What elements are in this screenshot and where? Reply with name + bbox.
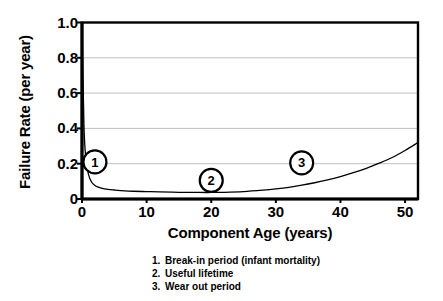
gridlines bbox=[82, 23, 418, 164]
legend-note-text: Break-in period (infant mortality) bbox=[165, 255, 320, 266]
legend-note-item: 2.Useful lifetime bbox=[152, 267, 320, 280]
legend-note-item: 1.Break-in period (infant mortality) bbox=[152, 254, 320, 267]
region-markers: 123 bbox=[83, 150, 313, 192]
legend-note-number: 3. bbox=[152, 280, 165, 293]
legend-notes: 1.Break-in period (infant mortality)2.Us… bbox=[152, 254, 320, 293]
legend-note-item: 3.Wear out period bbox=[152, 280, 320, 293]
axis-box bbox=[82, 23, 418, 200]
marker-label-1: 1 bbox=[91, 155, 98, 170]
legend-note-number: 1. bbox=[152, 254, 165, 267]
chart-figure: Failure Rate (per year) 00.20.40.60.81.0… bbox=[0, 0, 443, 301]
legend-note-number: 2. bbox=[152, 267, 165, 280]
marker-label-3: 3 bbox=[298, 155, 305, 170]
curve-path bbox=[82, 23, 418, 193]
axis-frame bbox=[77, 23, 418, 204]
failure-rate-curve bbox=[82, 23, 418, 193]
legend-note-text: Wear out period bbox=[165, 281, 241, 292]
marker-label-2: 2 bbox=[208, 173, 215, 188]
legend-note-text: Useful lifetime bbox=[165, 268, 233, 279]
